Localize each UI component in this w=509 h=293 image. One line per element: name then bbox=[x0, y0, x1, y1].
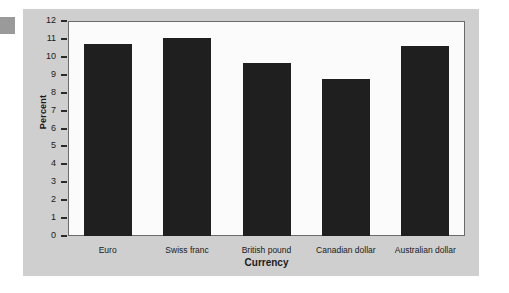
y-axis-tick-mark bbox=[61, 110, 67, 112]
bar bbox=[84, 44, 132, 236]
y-axis-tick-mark bbox=[61, 92, 67, 94]
y-axis-tick-label: 7 bbox=[40, 105, 56, 115]
x-axis-title: Currency bbox=[68, 257, 465, 268]
y-axis-tick-mark bbox=[61, 235, 67, 237]
y-axis-tick-label: 12 bbox=[40, 15, 56, 25]
bar bbox=[401, 46, 449, 236]
y-axis-tick-mark bbox=[61, 74, 67, 76]
y-axis-tick-mark bbox=[61, 145, 67, 147]
y-axis-tick-mark bbox=[61, 20, 67, 22]
y-axis-tick-label: 10 bbox=[40, 51, 56, 61]
y-axis-tick-label: 6 bbox=[40, 123, 56, 133]
y-axis-tick-mark bbox=[61, 38, 67, 40]
y-axis-tick-label: 3 bbox=[40, 176, 56, 186]
y-axis-tick-mark bbox=[61, 56, 67, 58]
y-axis-tick-mark bbox=[61, 163, 67, 165]
chart-figure-panel: Percent Currency 1211109876543210EuroSwi… bbox=[23, 9, 479, 276]
bar bbox=[322, 79, 370, 236]
y-axis-tick-label: 1 bbox=[40, 212, 56, 222]
bar bbox=[243, 63, 291, 236]
y-axis-tick-mark bbox=[61, 128, 67, 130]
y-axis-tick-mark bbox=[61, 199, 67, 201]
y-axis-tick-mark bbox=[61, 181, 67, 183]
y-axis-tick-label: 0 bbox=[40, 230, 56, 240]
y-axis-tick-label: 11 bbox=[40, 33, 56, 43]
y-axis-tick-label: 8 bbox=[40, 87, 56, 97]
bar bbox=[163, 38, 211, 236]
bar-series bbox=[68, 21, 465, 236]
x-axis-tick-label: Australian dollar bbox=[365, 245, 485, 255]
y-axis-tick-label: 5 bbox=[40, 140, 56, 150]
y-axis-tick-label: 4 bbox=[40, 158, 56, 168]
corner-marker bbox=[0, 17, 15, 34]
y-axis-tick-label: 2 bbox=[40, 194, 56, 204]
y-axis-tick-label: 9 bbox=[40, 69, 56, 79]
y-axis-tick-mark bbox=[61, 217, 67, 219]
